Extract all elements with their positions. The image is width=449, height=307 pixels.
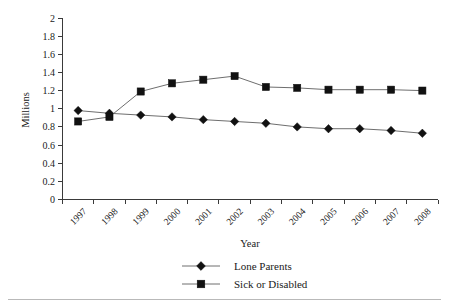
data-point-marker bbox=[199, 115, 207, 123]
data-point-marker bbox=[230, 117, 238, 125]
y-tick-label: 0.2 bbox=[43, 176, 56, 187]
legend-marker-square bbox=[197, 280, 205, 288]
data-point-marker bbox=[137, 111, 145, 119]
data-point-marker bbox=[106, 113, 113, 120]
data-point-marker bbox=[418, 129, 426, 137]
data-point-marker bbox=[137, 88, 144, 95]
chart-figure: 00.20.40.60.811.21.41.61.82 Millions 199… bbox=[0, 0, 449, 307]
y-tick-label: 1.4 bbox=[43, 67, 56, 78]
y-axis-title: Millions bbox=[20, 92, 31, 128]
data-point-marker bbox=[356, 125, 364, 133]
legend-item: Lone Parents bbox=[182, 260, 292, 272]
y-tick-label: 0 bbox=[50, 194, 55, 205]
data-point-marker bbox=[294, 84, 301, 91]
x-tick-label: 2002 bbox=[225, 206, 246, 227]
chart-legend: Lone ParentsSick or Disabled bbox=[182, 260, 308, 290]
x-axis-ticks bbox=[63, 200, 439, 205]
x-tick-label: 1997 bbox=[68, 206, 89, 227]
data-point-marker bbox=[231, 72, 238, 79]
x-tick-label: 2007 bbox=[381, 206, 402, 227]
y-tick-label: 1.8 bbox=[43, 31, 56, 42]
series-lone-parents bbox=[74, 106, 427, 137]
data-point-marker bbox=[324, 125, 332, 133]
y-tick-label: 1 bbox=[50, 103, 55, 114]
x-axis-title: Year bbox=[240, 238, 260, 249]
x-axis-tick-labels: 1997199819992000200120022003200420052006… bbox=[68, 206, 433, 227]
y-tick-label: 0.8 bbox=[43, 121, 56, 132]
data-point-marker bbox=[168, 80, 175, 87]
y-tick-label: 2 bbox=[50, 13, 55, 24]
data-point-marker bbox=[293, 123, 301, 131]
y-axis-tick-labels: 00.20.40.60.811.21.41.61.82 bbox=[43, 13, 56, 206]
y-axis: 00.20.40.60.811.21.41.61.82 Millions bbox=[20, 13, 63, 206]
bottom-divider bbox=[8, 299, 441, 300]
x-tick-label: 2000 bbox=[162, 206, 183, 227]
x-tick-label: 2001 bbox=[193, 206, 214, 227]
data-point-marker bbox=[262, 83, 269, 90]
y-tick-label: 0.6 bbox=[43, 140, 56, 151]
legend-marker-diamond bbox=[197, 262, 206, 271]
data-point-marker bbox=[200, 76, 207, 83]
x-tick-label: 2006 bbox=[350, 206, 371, 227]
data-point-marker bbox=[75, 118, 82, 125]
data-point-marker bbox=[419, 87, 426, 94]
series-sick-or-disabled bbox=[75, 72, 426, 125]
x-tick-label: 2004 bbox=[287, 206, 308, 227]
x-tick-label: 1998 bbox=[99, 206, 120, 227]
legend-item: Sick or Disabled bbox=[182, 278, 308, 290]
x-tick-label: 2003 bbox=[256, 206, 277, 227]
data-point-marker bbox=[168, 113, 176, 121]
plot-series-group bbox=[74, 72, 427, 137]
x-tick-label: 2005 bbox=[318, 206, 339, 227]
x-tick-label: 2008 bbox=[412, 206, 433, 227]
data-point-marker bbox=[325, 86, 332, 93]
data-point-marker bbox=[262, 119, 270, 127]
line-chart: 00.20.40.60.811.21.41.61.82 Millions 199… bbox=[0, 0, 449, 307]
x-tick-label: 1999 bbox=[131, 206, 152, 227]
x-axis: 1997199819992000200120022003200420052006… bbox=[63, 200, 439, 250]
y-tick-label: 1.6 bbox=[43, 49, 56, 60]
data-point-marker bbox=[387, 86, 394, 93]
data-point-marker bbox=[387, 126, 395, 134]
series-polyline bbox=[78, 111, 422, 134]
legend-label: Lone Parents bbox=[234, 260, 292, 272]
data-point-marker bbox=[74, 106, 82, 114]
y-tick-label: 0.4 bbox=[43, 158, 56, 169]
y-tick-label: 1.2 bbox=[43, 85, 56, 96]
legend-label: Sick or Disabled bbox=[234, 278, 308, 290]
y-axis-ticks bbox=[58, 18, 63, 200]
data-point-marker bbox=[356, 86, 363, 93]
